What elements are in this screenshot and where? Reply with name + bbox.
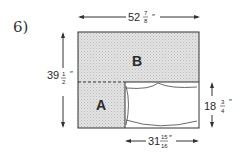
left-height-whole: 39 (47, 69, 59, 81)
top-width-whole: 52 (128, 11, 140, 23)
right-height-unit: ″ (229, 97, 232, 106)
top-width-denominator: 8 (144, 18, 148, 24)
cutout-region (125, 82, 199, 128)
bottom-width-numerator: 15 (161, 134, 168, 140)
left-height-denominator: 2 (62, 79, 66, 85)
right-height-denominator: 4 (221, 108, 225, 114)
region-b-label: B (132, 53, 142, 69)
right-height-numerator: 3 (221, 99, 225, 105)
left-height-unit: ″ (70, 69, 73, 78)
problem-number: 6) (13, 18, 28, 36)
bottom-width-unit: ″ (169, 133, 172, 142)
top-width-unit: ″ (152, 12, 155, 21)
region-a-label: A (96, 97, 106, 113)
right-height-whole: 18 (204, 100, 216, 112)
left-height-numerator: 1 (62, 71, 66, 77)
bottom-width-denominator: 16 (161, 143, 168, 149)
top-width-numerator: 7 (144, 10, 148, 16)
area-diagram: 6) B A 52 7 8 ″ 39 1 2 ″ (0, 0, 249, 157)
bottom-width-whole: 31 (148, 135, 160, 147)
